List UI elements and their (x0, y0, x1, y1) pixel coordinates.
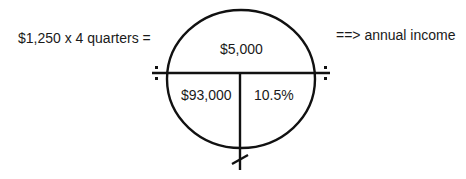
circle-top-value: $5,000 (220, 41, 263, 57)
circle-bottom-right-value: 10.5% (254, 87, 294, 103)
right-note: ==> annual income (336, 27, 455, 43)
circle-bottom-left-value: $93,000 (181, 87, 232, 103)
left-equation: $1,250 x 4 quarters = (18, 30, 151, 46)
